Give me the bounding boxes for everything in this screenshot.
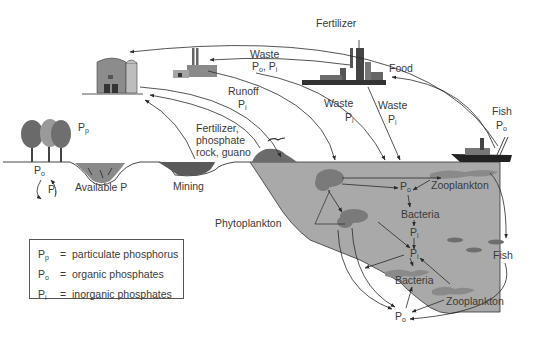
legend-symbol: Po <box>38 266 60 286</box>
legend-symbol: Pp <box>38 246 60 266</box>
fishing-boat-icon <box>451 137 512 162</box>
farm-icon <box>82 58 143 94</box>
label-fertilizer-top: Fertilizer <box>316 18 356 29</box>
label-food: Food <box>389 63 413 74</box>
legend-box: Pp=particulate phosphorus Po=organic pho… <box>29 239 184 299</box>
label-fish-boat: Fish <box>492 106 512 117</box>
label-waste-factory-sub: Po, Pi <box>252 61 277 75</box>
label-phosphate-rock: phosphate <box>196 135 245 146</box>
label-waste-city: Waste <box>378 100 407 111</box>
label-pi-soil: Pi <box>48 184 57 198</box>
label-zooplankton-upper: Zooplankton <box>431 180 489 191</box>
label-pp-trees: Pp <box>78 122 89 136</box>
legend-row-pi: Pi=inorganic phosphates <box>38 286 183 306</box>
label-waste-factory: Waste <box>250 49 279 60</box>
label-runoff: Runoff <box>228 86 259 97</box>
trees-icon <box>21 119 71 162</box>
legend-row-pp: Pp=particulate phosphorus <box>38 246 183 266</box>
label-fertilizer-rock: Fertilizer, <box>196 123 239 134</box>
label-fish-sea: Fish <box>493 250 513 261</box>
label-fish-boat-sub: Po <box>496 120 507 134</box>
guano-rock <box>252 149 297 162</box>
label-mining: Mining <box>173 181 204 192</box>
label-waste-mid: Waste <box>324 98 353 109</box>
city-icon <box>302 40 386 85</box>
label-waste-mid-sub: Pi <box>345 112 354 126</box>
label-runoff-sub: Pi <box>238 99 247 113</box>
label-rock-guano: rock, guano <box>196 147 251 158</box>
label-phytoplankton: Phytoplankton <box>215 218 282 229</box>
legend-symbol: Pi <box>38 286 60 306</box>
legend-row-po: Po=organic phosphates <box>38 266 183 286</box>
label-pi-lower: Pi <box>410 248 419 262</box>
factory-icon <box>173 48 217 78</box>
label-pi-upper: Pi <box>410 227 419 241</box>
label-po-upper: Po <box>400 181 411 195</box>
label-available-p: Available P <box>75 182 127 193</box>
label-po-bottom: Po <box>395 311 406 325</box>
label-waste-city-sub: Pi <box>388 114 397 128</box>
label-po-soil: Po <box>34 165 45 179</box>
label-zooplankton-lower: Zooplankton <box>446 296 504 307</box>
label-bacteria-upper: Bacteria <box>401 209 440 220</box>
label-bacteria-lower: Bacteria <box>395 275 434 286</box>
